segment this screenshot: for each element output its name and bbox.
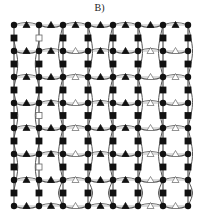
circle-node	[85, 48, 91, 54]
triangle-node	[48, 125, 55, 131]
square-node	[135, 164, 141, 170]
circle-node	[135, 22, 141, 28]
circle-node	[135, 100, 141, 106]
circle-node	[60, 22, 66, 28]
square-node	[11, 164, 17, 170]
circle-node	[185, 22, 191, 28]
circle-node	[160, 48, 166, 54]
circle-node	[85, 203, 91, 209]
square-node	[36, 190, 42, 196]
square-node	[160, 113, 166, 119]
square-node	[36, 87, 42, 93]
circle-node	[11, 125, 17, 131]
circle-node	[60, 100, 66, 106]
square-node	[185, 164, 191, 170]
circle-node	[160, 151, 166, 157]
circle-node	[11, 177, 17, 183]
circle-node	[185, 100, 191, 106]
hollow-triangle-node	[172, 48, 179, 54]
square-node	[185, 87, 191, 93]
circle-node	[160, 100, 166, 106]
circle-node	[185, 125, 191, 131]
circle-node	[85, 22, 91, 28]
circle-node	[135, 48, 141, 54]
triangle-node	[97, 125, 104, 131]
square-node	[110, 35, 116, 41]
hollow-triangle-node	[72, 203, 79, 209]
square-node	[11, 113, 17, 119]
square-node	[135, 87, 141, 93]
square-node	[160, 35, 166, 41]
triangle-node	[97, 177, 104, 183]
circle-node	[11, 203, 17, 209]
square-node	[135, 113, 141, 119]
square-node	[85, 87, 91, 93]
square-node	[36, 138, 42, 144]
circle-node	[60, 203, 66, 209]
circle-node	[11, 48, 17, 54]
square-node	[11, 61, 17, 67]
triangle-node	[97, 22, 104, 28]
triangle-node	[23, 203, 30, 209]
circle-node	[160, 74, 166, 80]
circle-node	[160, 177, 166, 183]
square-node	[160, 138, 166, 144]
hollow-square-node	[36, 35, 42, 41]
square-node	[185, 61, 191, 67]
square-node	[85, 35, 91, 41]
lattice-diagram	[0, 0, 199, 215]
circle-node	[135, 177, 141, 183]
hollow-triangle-node	[172, 203, 179, 209]
circle-node	[135, 74, 141, 80]
square-node	[110, 164, 116, 170]
hollow-triangle-node	[72, 48, 79, 54]
square-node	[160, 164, 166, 170]
square-node	[160, 190, 166, 196]
triangle-node	[147, 22, 154, 28]
square-node	[110, 61, 116, 67]
square-node	[185, 138, 191, 144]
circle-node	[185, 151, 191, 157]
triangle-node	[97, 74, 104, 80]
circle-node	[11, 74, 17, 80]
hollow-square-node	[36, 113, 42, 119]
square-node	[11, 138, 17, 144]
square-node	[36, 61, 42, 67]
square-node	[60, 138, 66, 144]
circle-node	[135, 125, 141, 131]
square-node	[60, 35, 66, 41]
hollow-triangle-node	[147, 125, 154, 131]
circle-node	[60, 125, 66, 131]
square-node	[60, 87, 66, 93]
square-node	[60, 190, 66, 196]
circle-node	[36, 100, 42, 106]
hollow-triangle-node	[147, 177, 154, 183]
triangle-node	[23, 48, 30, 54]
square-node	[110, 87, 116, 93]
square-node	[135, 190, 141, 196]
circle-node	[110, 48, 116, 54]
circle-node	[160, 125, 166, 131]
triangle-node	[48, 22, 55, 28]
square-node	[185, 35, 191, 41]
square-node	[135, 138, 141, 144]
square-node	[85, 190, 91, 196]
circle-node	[36, 48, 42, 54]
triangle-node	[48, 74, 55, 80]
triangle-node	[23, 151, 30, 157]
circle-node	[85, 151, 91, 157]
triangle-node	[122, 48, 129, 54]
circle-node	[135, 203, 141, 209]
square-node	[85, 113, 91, 119]
circle-node	[110, 203, 116, 209]
square-node	[110, 138, 116, 144]
square-node	[11, 87, 17, 93]
circle-node	[110, 22, 116, 28]
circle-node	[36, 74, 42, 80]
circle-node	[60, 177, 66, 183]
circle-node	[135, 151, 141, 157]
circle-node	[110, 100, 116, 106]
square-node	[160, 61, 166, 67]
circle-node	[60, 74, 66, 80]
circle-node	[160, 203, 166, 209]
